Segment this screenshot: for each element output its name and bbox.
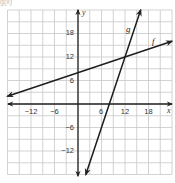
x-tick: 12 [121,107,129,116]
x-tick: 18 [144,107,152,116]
y-tick: −12 [61,146,74,155]
x-axis-label: x [166,106,171,115]
x-tick: −6 [50,107,59,116]
y-tick: 18 [66,28,74,37]
y-tick: −6 [65,123,74,132]
y-tick-labels: 18 12 6 −6 −12 [61,28,74,155]
cut-off-heading: g(x) [0,0,12,6]
coordinate-plane: g(x) x y −12 −6 6 12 18 18 12 6 −6 −12 f… [0,0,175,183]
line-g-label: g [126,24,131,34]
y-tick: 6 [70,76,74,85]
x-tick: 6 [99,107,103,116]
x-tick: −12 [25,107,38,116]
grid-lines [8,10,173,175]
line-f-label: f [152,36,156,46]
x-tick-labels: −12 −6 6 12 18 [25,107,153,116]
y-axis-label: y [81,8,86,17]
y-tick: 12 [66,52,74,61]
